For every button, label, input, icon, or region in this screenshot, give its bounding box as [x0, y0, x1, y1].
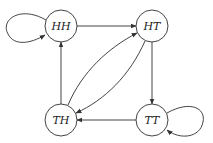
- edge-tt-tt: [167, 106, 203, 136]
- node-label: HH: [50, 20, 71, 33]
- node-label: TH: [53, 114, 70, 127]
- node-hh: HH: [45, 10, 77, 42]
- node-tt: TT: [136, 104, 168, 136]
- edge-th-ht: [68, 33, 137, 105]
- node-ht: HT: [136, 10, 168, 42]
- node-label: HT: [143, 20, 163, 33]
- edge-hh-hh: [6, 14, 46, 43]
- node-th: TH: [45, 104, 77, 136]
- state-diagram: HH HT TH TT: [0, 0, 213, 143]
- node-label: TT: [145, 114, 162, 127]
- edge-ht-th: [76, 41, 145, 113]
